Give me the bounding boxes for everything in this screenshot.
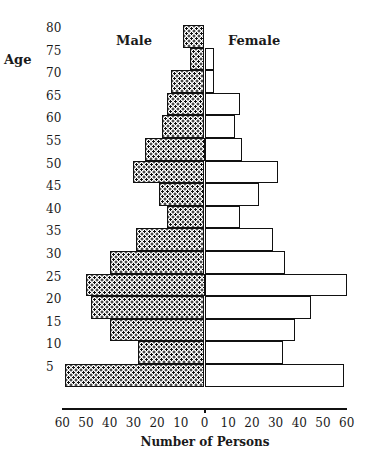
y-tick-label: 50 [46,157,68,171]
male-bar [136,228,205,251]
y-tick-label: 40 [46,202,68,216]
y-tick-label: 45 [46,179,68,193]
population-pyramid-chart: Age Male Female 807570656055504540353025… [0,0,372,468]
y-tick-label: 20 [46,292,68,306]
male-bar [167,206,205,229]
y-tick-label: 35 [46,224,68,238]
x-axis-label: Number of Persons [0,435,372,449]
x-tick-label: 50 [74,416,98,430]
x-tick-label: 20 [240,416,264,430]
female-label: Female [228,33,280,48]
y-tick-label: 75 [46,44,68,58]
zero-tick [204,408,206,413]
male-label: Male [116,33,152,48]
x-tick-label: 10 [216,416,240,430]
female-bar [205,319,295,342]
female-bar [205,93,241,116]
male-bar [183,25,204,48]
female-bar [205,115,236,138]
x-tick-label: 60 [335,416,359,430]
x-tick-label: 40 [287,416,311,430]
x-tick-label: 30 [121,416,145,430]
y-tick-label: 30 [46,247,68,261]
female-bar [205,70,214,93]
y-axis-label: Age [4,52,31,67]
female-bar [205,274,347,297]
male-bar [91,296,205,319]
male-bar [65,364,205,387]
x-tick-label: 40 [98,416,122,430]
male-bar [171,70,204,93]
female-bar [205,206,241,229]
x-tick-label: 50 [311,416,335,430]
male-bar [162,115,205,138]
y-tick-label: 55 [46,134,68,148]
x-tick-label: 20 [145,416,169,430]
female-bar [205,251,286,274]
y-tick-label: 70 [46,66,68,80]
x-tick-label: 10 [169,416,193,430]
y-tick-label: 65 [46,89,68,103]
female-bar [205,341,283,364]
female-bar [205,296,312,319]
male-bar [86,274,205,297]
male-bar [159,183,204,206]
x-tick-label: 0 [193,416,217,430]
male-bar [133,161,204,184]
male-bar [110,251,205,274]
male-bar [190,48,204,71]
x-tick-label: 30 [264,416,288,430]
x-tick-label: 60 [50,416,74,430]
female-bar [205,228,274,251]
y-tick-label: 60 [46,111,68,125]
male-bar [138,341,204,364]
y-tick-label: 10 [46,337,68,351]
female-bar [205,138,243,161]
y-tick-label: 15 [46,315,68,329]
female-bar [205,364,345,387]
male-bar [167,93,205,116]
male-bar [145,138,204,161]
male-bar [110,319,205,342]
female-bar [205,183,260,206]
female-bar [205,161,278,184]
y-tick-label: 80 [46,21,68,35]
y-tick-label: 25 [46,270,68,284]
female-bar [205,48,214,71]
